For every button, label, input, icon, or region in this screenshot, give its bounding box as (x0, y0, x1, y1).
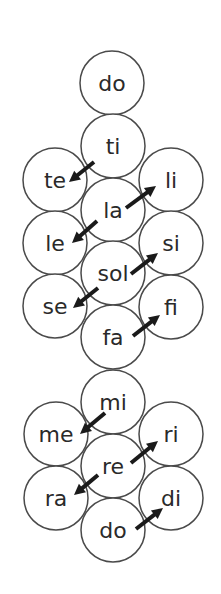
node-label-si: si (162, 231, 180, 256)
node-label-li: li (165, 168, 177, 193)
node-label-di: di (161, 486, 181, 511)
node-label-sol: sol (97, 261, 128, 286)
node-label-ti: ti (106, 134, 121, 159)
node-label-le: le (45, 231, 65, 256)
node-label-fa: fa (102, 325, 123, 350)
solfege-diagram: dotitelilalesisolsefifamimerireradido (0, 0, 221, 594)
node-label-te: te (44, 168, 66, 193)
node-label-do-top: do (98, 71, 125, 96)
node-label-do-bottom: do (99, 518, 126, 543)
node-label-ra: ra (45, 486, 68, 511)
node-label-ri: ri (163, 422, 178, 447)
node-label-se: se (43, 294, 68, 319)
node-label-re: re (102, 454, 124, 479)
node-label-mi: mi (99, 390, 127, 415)
node-label-me: me (39, 422, 74, 447)
node-label-la: la (103, 198, 123, 223)
node-label-fi: fi (164, 295, 178, 320)
